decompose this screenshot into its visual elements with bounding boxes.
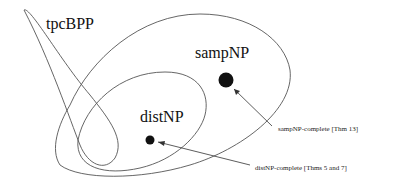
distNP-complete-annotation: distNP-complete [Thms 5 and 7] xyxy=(255,164,347,172)
sampNP-region xyxy=(55,14,290,176)
tpcBPP-region xyxy=(24,10,118,166)
complexity-classes-diagram: tpcBPP sampNP distNP sampNP-complete [Th… xyxy=(0,0,397,185)
distNP-label: distNP xyxy=(140,108,184,125)
sampNP-complete-dot xyxy=(219,73,234,88)
distNP-arrow xyxy=(158,142,250,165)
sampNP-complete-annotation: sampNP-complete [Thm 13] xyxy=(278,125,358,133)
tpcBPP-label: tpcBPP xyxy=(46,15,94,33)
sampNP-label: sampNP xyxy=(195,44,249,62)
sampNP-arrow xyxy=(234,89,272,126)
distNP-arrowhead xyxy=(158,141,165,146)
distNP-complete-dot xyxy=(146,136,155,145)
